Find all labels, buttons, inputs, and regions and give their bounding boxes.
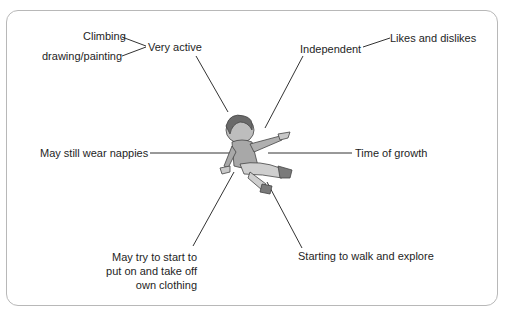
toddler-illustration [210,108,310,196]
line-likes [363,38,390,47]
label-clothing-line1: May try to start to [105,250,197,264]
label-time-of-growth: Time of growth [355,147,427,160]
label-clothing: May try to start to put on and take off … [105,250,197,292]
label-very-active: Very active [148,41,202,54]
label-walk-explore: Starting to walk and explore [298,250,434,263]
label-drawing-painting: drawing/painting [42,50,122,63]
line-very-active [196,56,228,112]
label-likes-dislikes: Likes and dislikes [390,32,476,45]
label-climbing: Climbing [83,30,126,43]
line-drawing [122,47,146,56]
label-clothing-line3: own clothing [105,278,197,292]
label-independent: Independent [300,43,361,56]
label-clothing-line2: put on and take off [105,264,197,278]
label-nappies: May still wear nappies [40,147,148,160]
